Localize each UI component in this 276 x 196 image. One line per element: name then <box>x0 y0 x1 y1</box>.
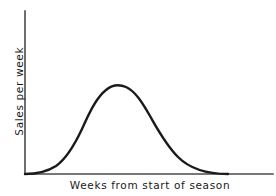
series-group <box>25 85 228 174</box>
x-axis-label: Weeks from start of season <box>0 180 276 191</box>
y-axis-label: Sales per week <box>14 36 25 146</box>
sales-per-week-curve <box>25 85 228 174</box>
axes-group <box>25 11 273 174</box>
chart-figure: Sales per week Weeks from start of seaso… <box>0 0 276 196</box>
chart-plot-area <box>0 0 276 196</box>
